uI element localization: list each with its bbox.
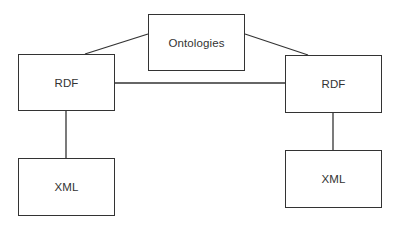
node-label: XML bbox=[322, 173, 346, 185]
node-rdf-right: RDF bbox=[285, 55, 382, 113]
node-label: RDF bbox=[322, 78, 346, 90]
layer-diagram: Ontologies RDF RDF XML XML bbox=[0, 0, 397, 227]
node-rdf-left: RDF bbox=[18, 54, 115, 111]
node-xml-left: XML bbox=[18, 158, 115, 216]
node-label: RDF bbox=[55, 77, 79, 89]
edge-ontologies-rdf-left bbox=[85, 34, 148, 54]
node-label: XML bbox=[55, 181, 79, 193]
edge-ontologies-rdf-right bbox=[245, 34, 308, 55]
node-label: Ontologies bbox=[169, 37, 225, 49]
node-xml-right: XML bbox=[285, 150, 382, 208]
node-ontologies: Ontologies bbox=[148, 14, 245, 71]
